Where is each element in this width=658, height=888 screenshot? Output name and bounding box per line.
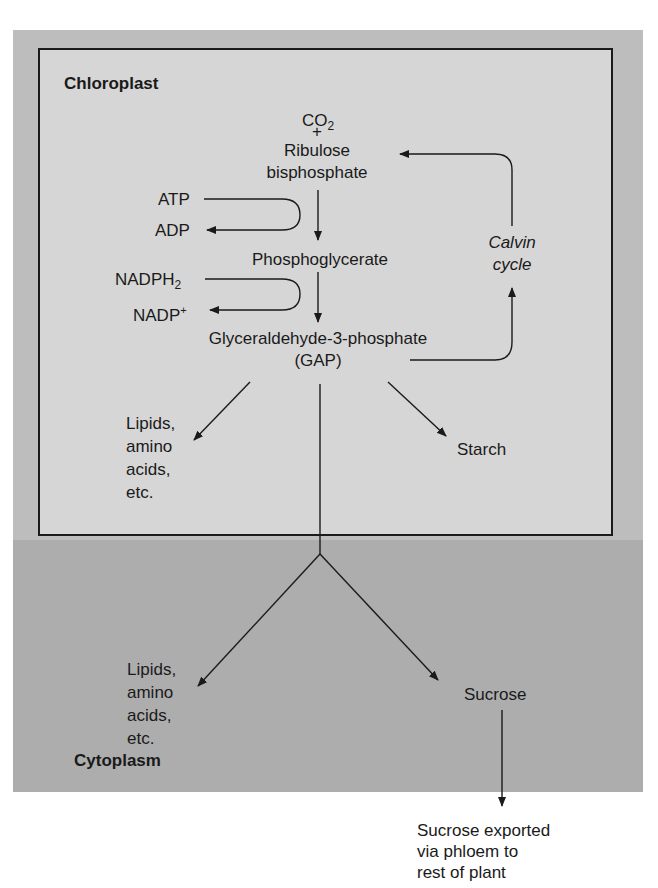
arrow-gap-to-starch bbox=[388, 382, 446, 436]
phosphoglycerate-label: Phosphoglycerate bbox=[252, 249, 388, 270]
chloroplast-label: Chloroplast bbox=[64, 73, 158, 94]
nadph-text: NADPH bbox=[115, 270, 175, 289]
nadp-label: NADP+ bbox=[133, 300, 187, 326]
cytoplasm-label: Cytoplasm bbox=[74, 750, 161, 771]
co2-subscript: 2 bbox=[327, 119, 334, 133]
gap-label: Glyceraldehyde-3-phosphate (GAP) bbox=[209, 328, 427, 372]
lipids-amino-acids-chloroplast-label: Lipids, amino acids, etc. bbox=[126, 412, 175, 504]
arrow-to-sucrose bbox=[320, 554, 438, 680]
arrow-gap-to-lipids-chloro bbox=[194, 382, 250, 440]
lipids-amino-acids-cytoplasm-label: Lipids, amino acids, etc. bbox=[127, 658, 176, 750]
adp-label: ADP bbox=[155, 220, 190, 241]
nadp-superscript: + bbox=[180, 304, 186, 316]
starch-label: Starch bbox=[457, 439, 506, 460]
nadph-label: NADPH2 bbox=[115, 269, 181, 296]
arrow-atp-to-adp bbox=[204, 199, 300, 230]
plus-sign: + bbox=[312, 125, 322, 139]
atp-label: ATP bbox=[158, 189, 190, 210]
nadp-text: NADP bbox=[133, 306, 180, 325]
arrow-calvin-to-rubp bbox=[400, 154, 512, 226]
nadph-subscript: 2 bbox=[175, 278, 182, 292]
sucrose-export-label: Sucrose exported via phloem to rest of p… bbox=[417, 820, 550, 883]
calvin-cycle-label: Calvin cycle bbox=[488, 232, 535, 276]
arrow-nadph-to-nadp bbox=[205, 279, 300, 310]
sucrose-label: Sucrose bbox=[464, 684, 526, 705]
ribulose-bisphosphate-label: Ribulose bisphosphate bbox=[266, 140, 367, 184]
arrow-to-lipids-cyto bbox=[198, 554, 320, 686]
